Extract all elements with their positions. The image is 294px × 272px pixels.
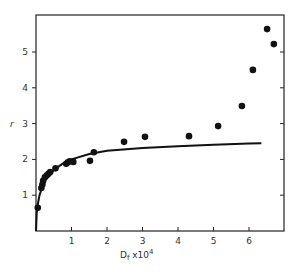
x-tick-label: 6	[246, 236, 252, 246]
x-axis-ticks: 123456	[69, 227, 253, 246]
model-curve-line	[36, 143, 261, 231]
data-point	[70, 159, 77, 166]
x-tick-label: 3	[140, 236, 146, 246]
y-tick-label: 1	[22, 190, 28, 200]
data-points	[34, 26, 277, 211]
data-point	[186, 133, 193, 140]
x-tick-label: 1	[69, 236, 75, 246]
plot-frame	[36, 15, 284, 231]
data-point	[239, 103, 246, 110]
data-point	[87, 158, 94, 165]
x-tick-label: 4	[175, 236, 181, 246]
y-tick-label: 5	[22, 47, 28, 57]
chart: 123456 12345 r Df x104	[0, 0, 294, 272]
data-point	[271, 41, 278, 48]
x-axis-label: Df x104	[120, 248, 154, 262]
data-point	[250, 67, 257, 74]
y-axis-label: r	[10, 119, 15, 129]
y-tick-label: 3	[22, 119, 28, 129]
data-point	[264, 26, 271, 33]
y-tick-label: 2	[22, 154, 28, 164]
data-point	[215, 123, 222, 130]
x-tick-label: 5	[211, 236, 217, 246]
y-axis-ticks: 12345	[22, 47, 284, 200]
y-tick-label: 4	[22, 83, 28, 93]
x-tick-label: 2	[104, 236, 110, 246]
data-point	[121, 139, 128, 146]
data-point	[34, 204, 41, 211]
data-point	[91, 149, 98, 156]
data-point	[52, 165, 59, 172]
data-point	[142, 134, 149, 141]
